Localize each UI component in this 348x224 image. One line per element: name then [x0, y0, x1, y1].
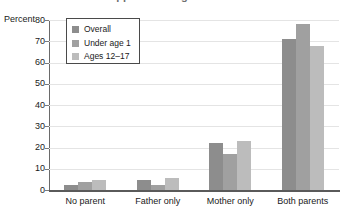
bar — [223, 154, 237, 190]
bar — [310, 46, 324, 191]
legend-swatch-icon — [72, 26, 79, 33]
y-axis-tick-label: 40 — [35, 101, 45, 110]
y-axis-tick-label: 60 — [35, 58, 45, 67]
legend-item: Overall — [72, 23, 111, 36]
legend-swatch-icon — [72, 53, 79, 60]
bar — [296, 24, 310, 190]
x-axis-group-label: No parent — [49, 196, 122, 206]
bar — [92, 180, 106, 190]
bar — [237, 141, 251, 190]
bar — [282, 39, 296, 190]
x-axis-line — [49, 190, 340, 192]
legend-item: Under age 1 — [72, 37, 131, 50]
y-axis-tick-label: 70 — [35, 37, 45, 46]
x-axis-group-label: Father only — [122, 196, 195, 206]
bar — [78, 182, 92, 191]
legend-item: Ages 12–17 — [72, 50, 129, 63]
y-axis-tick-label: 80 — [35, 16, 45, 25]
clipped-title-strip: clipped heading — [0, 0, 348, 8]
x-axis-group-label: Both parents — [267, 196, 340, 206]
legend-label: Overall — [84, 25, 111, 34]
y-axis-tick-label: 30 — [35, 122, 45, 131]
bar — [137, 180, 151, 190]
y-axis-tick-label: 50 — [35, 79, 45, 88]
bar-chart: clipped heading Percent 0102030405060708… — [0, 0, 348, 224]
y-axis-tick-label: 10 — [35, 164, 45, 173]
y-axis-tick-label: 20 — [35, 143, 45, 152]
bar — [209, 143, 223, 190]
y-axis-tick-labels: 01020304050607080 — [0, 20, 45, 190]
chart-legend: OverallUnder age 1Ages 12–17 — [66, 18, 140, 64]
chart-title-fragment: clipped heading — [104, 0, 188, 2]
x-axis-group-label: Mother only — [194, 196, 267, 206]
bar — [165, 178, 179, 190]
legend-swatch-icon — [72, 40, 79, 47]
legend-label: Under age 1 — [84, 39, 131, 48]
legend-label: Ages 12–17 — [84, 52, 129, 61]
